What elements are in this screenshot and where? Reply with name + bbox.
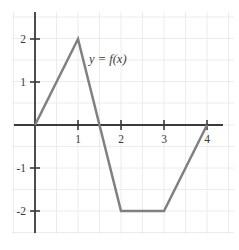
- y-tick-label-1: 1: [20, 76, 26, 88]
- plot-background: [12, 12, 234, 234]
- y-tick-label-2: 2: [20, 33, 26, 45]
- curve-label-annotation: y = f(x): [87, 52, 127, 66]
- x-tick-label-1: 1: [75, 133, 81, 145]
- plot-canvas: 1 2 3 4 2 1 -1 -2 y = f(x): [0, 0, 239, 250]
- y-tick-label-neg1: -1: [16, 162, 26, 174]
- y-tick-label-neg2: -2: [16, 205, 26, 217]
- x-tick-label-3: 3: [161, 133, 167, 145]
- function-graph-figure: 1 2 3 4 2 1 -1 -2 y = f(x): [0, 0, 239, 250]
- x-tick-label-2: 2: [118, 133, 124, 145]
- x-tick-label-4: 4: [204, 133, 210, 145]
